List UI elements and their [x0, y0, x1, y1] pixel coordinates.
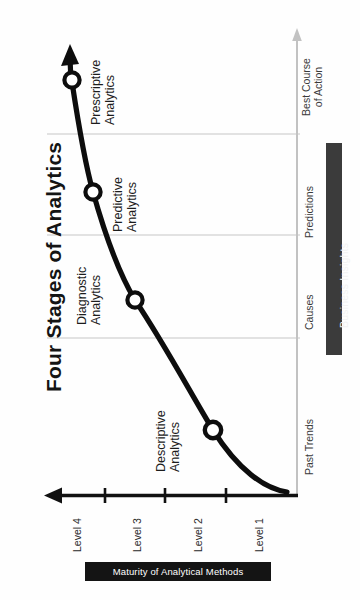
point-label-predictive-line1: Predictive — [112, 177, 126, 232]
x-tick-label-level-3: Level 3 — [131, 518, 143, 552]
chart-title: Four Stages of Analytics — [42, 142, 66, 392]
y-tick-label-best-course-line1: Best Course — [300, 52, 312, 122]
point-label-prescriptive: Prescriptive Analytics — [90, 60, 117, 125]
point-label-diagnostic-line2: Analytics — [90, 267, 104, 325]
y-tick-label-best-course-of-action: Best Course of Action — [300, 52, 324, 122]
x-axis-title-band: Maturity of Analytical Methods — [85, 562, 271, 581]
y-tick-label-past-trends: Past Trends — [303, 419, 315, 475]
business-insights-bar: Business Insights — [326, 143, 342, 355]
y-tick-label-causes: Causes — [303, 294, 315, 330]
point-label-predictive-line2: Analytics — [126, 177, 140, 232]
point-label-prescriptive-line1: Prescriptive — [90, 60, 104, 125]
point-label-descriptive: Descriptive Analytics — [155, 410, 182, 472]
chart-figure: Four Stages of Analytics Prescriptive An… — [0, 0, 360, 600]
y-tick-label-best-course-line2: of Action — [312, 52, 324, 122]
x-axis — [44, 488, 298, 504]
x-tick-label-level-2: Level 2 — [192, 518, 204, 552]
point-label-predictive: Predictive Analytics — [112, 177, 139, 232]
data-point-predictive — [85, 184, 100, 199]
y-tick-label-predictions: Predictions — [303, 186, 315, 238]
point-label-prescriptive-line2: Analytics — [104, 60, 118, 125]
point-label-diagnostic: Diagnostic Analytics — [76, 267, 103, 325]
point-label-descriptive-line1: Descriptive — [155, 410, 169, 472]
data-point-descriptive — [205, 422, 221, 438]
business-insights-label: Business Insights — [338, 243, 350, 328]
x-axis-title: Maturity of Analytical Methods — [113, 566, 244, 577]
data-point-prescriptive — [64, 72, 79, 87]
point-label-diagnostic-line1: Diagnostic — [76, 267, 90, 325]
x-tick-label-level-1: Level 1 — [253, 518, 265, 552]
x-tick-label-level-4: Level 4 — [71, 518, 83, 552]
data-markers — [64, 72, 221, 438]
point-label-descriptive-line2: Analytics — [169, 410, 183, 472]
data-point-diagnostic — [127, 292, 142, 307]
